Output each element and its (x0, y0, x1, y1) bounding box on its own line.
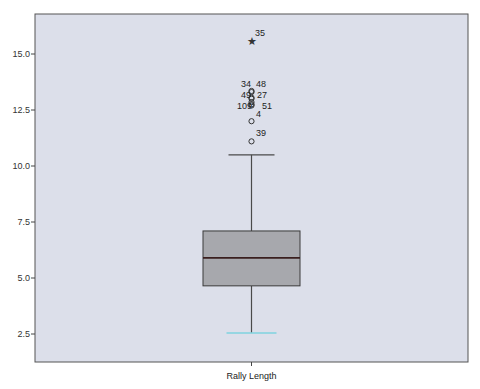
x-category-label: Rally Length (226, 371, 276, 381)
outlier-case-label: 4 (256, 109, 261, 119)
outlier-case-label: 48 (256, 79, 266, 89)
outlier-case-label: 34 (241, 79, 251, 89)
y-tick-label: 2.5 (17, 329, 30, 339)
y-tick-label: 12.5 (12, 105, 30, 115)
outlier-case-label: 109 (237, 101, 252, 111)
y-tick-label: 10.0 (12, 161, 30, 171)
y-tick-label: 7.5 (17, 217, 30, 227)
outlier-case-label: 39 (256, 128, 266, 138)
y-axis: 2.55.07.510.012.515.0 (12, 49, 35, 339)
boxplot-chart: 2.55.07.510.012.515.0 ★39410951492734483… (0, 0, 480, 389)
outlier-case-label: 49 (241, 90, 251, 100)
outlier-case-label: 27 (257, 90, 267, 100)
y-tick-label: 15.0 (12, 49, 30, 59)
outlier-case-label: 35 (255, 28, 265, 38)
outlier-case-label: 51 (262, 101, 272, 111)
y-tick-label: 5.0 (17, 273, 30, 283)
